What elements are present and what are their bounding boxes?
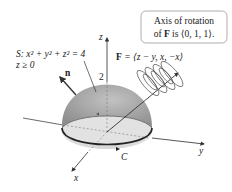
field-equation-label: F = ⟨z − y, x, −x⟩ <box>116 52 183 62</box>
normal-vector <box>60 77 76 95</box>
z-axis-label: z <box>98 32 103 42</box>
normal-label: n <box>65 68 71 78</box>
y-axis-label: y <box>198 146 204 156</box>
surface-condition-label: z ≥ 0 <box>15 60 35 70</box>
x-axis-label: x <box>73 173 79 183</box>
diagram-canvas: Axis of rotation of F is ⟨0, 1, 1⟩. S: x… <box>0 0 232 192</box>
surface-equation-label: S: x² + y² + z² = 4 <box>16 49 85 59</box>
y-axis <box>152 138 204 144</box>
z-tick-label: 2 <box>99 72 104 82</box>
x-axis <box>72 152 88 171</box>
field-swirl-coils <box>134 59 186 99</box>
callout-line1: Axis of rotation <box>154 16 214 26</box>
curve-c-label: C <box>121 152 128 162</box>
callout-line2: of F is ⟨0, 1, 1⟩. <box>154 29 215 39</box>
neg-y-axis-line <box>23 118 63 125</box>
